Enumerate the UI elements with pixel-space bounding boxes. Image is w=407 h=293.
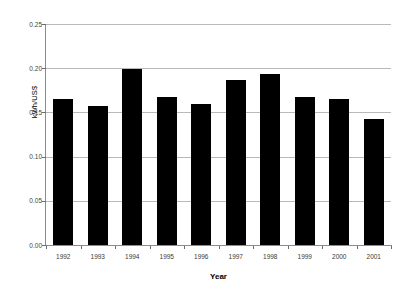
gridline — [46, 24, 391, 25]
y-axis-tick — [42, 157, 46, 158]
x-axis-tick-label: 1994 — [115, 253, 149, 261]
x-axis-tick — [357, 246, 358, 249]
x-axis-tick-label: 1999 — [288, 253, 322, 261]
x-axis-tick-label: 1997 — [219, 253, 253, 261]
bar-2001 — [364, 119, 384, 245]
bar-1996 — [191, 104, 211, 245]
y-axis-tick — [42, 201, 46, 202]
y-axis-tick-label: 0.15 — [20, 109, 42, 116]
y-axis-tick — [42, 112, 46, 113]
y-axis-tick-label: 0.25 — [20, 21, 42, 28]
x-axis-tick — [391, 246, 392, 249]
y-axis-tick-label: 0.00 — [20, 242, 42, 249]
x-axis-tick — [150, 246, 151, 249]
y-axis-tick-label: 0.05 — [20, 197, 42, 204]
x-axis-tick-label: 1996 — [184, 253, 218, 261]
x-axis-tick-label: 2000 — [322, 253, 356, 261]
x-axis-tick — [81, 246, 82, 249]
bar-1994 — [122, 69, 142, 245]
y-axis-tick — [42, 68, 46, 69]
bar-1992 — [53, 99, 73, 245]
y-axis-tick-label: 0.10 — [20, 153, 42, 160]
x-axis-tick-label: 1995 — [150, 253, 184, 261]
bar-2000 — [329, 99, 349, 245]
x-axis-tick — [219, 246, 220, 249]
bar-1995 — [157, 97, 177, 246]
bar-1993 — [88, 106, 108, 245]
y-axis-tick — [42, 24, 46, 25]
bar-1997 — [226, 80, 246, 245]
x-axis-tick-label: 2001 — [357, 253, 391, 261]
x-axis-tick-label: 1998 — [253, 253, 287, 261]
gridline — [46, 68, 391, 69]
x-axis-tick — [184, 246, 185, 249]
bar-chart: kWh/US$ 0.250.200.150.100.050.00 Year 19… — [0, 0, 407, 293]
plot-area — [46, 24, 391, 245]
x-axis-tick — [322, 246, 323, 249]
y-axis-tick-labels: 0.250.200.150.100.050.00 — [18, 0, 42, 293]
y-axis-tick-label: 0.20 — [20, 65, 42, 72]
x-axis-tick-label: 1992 — [46, 253, 80, 261]
bar-1999 — [295, 97, 315, 246]
x-axis-tick — [46, 246, 47, 249]
x-axis-tick-label: 1993 — [81, 253, 115, 261]
x-axis-tick — [253, 246, 254, 249]
x-axis-tick — [115, 246, 116, 249]
x-axis-title: Year — [46, 272, 391, 281]
bar-1998 — [260, 74, 280, 245]
x-axis-tick — [288, 246, 289, 249]
